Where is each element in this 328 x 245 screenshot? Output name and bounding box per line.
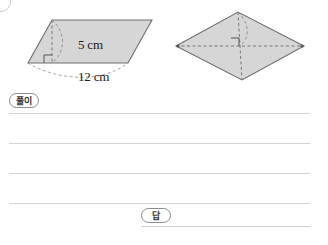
write-line[interactable]: [9, 203, 310, 204]
write-line[interactable]: [9, 173, 310, 174]
rhombus-right-vertex-dot: [300, 44, 303, 47]
parallelogram-figure: 5 cm 12 cm: [20, 8, 160, 80]
rhombus-left-vertex-dot: [176, 44, 179, 47]
solution-badge: 풀이: [9, 93, 39, 108]
parallelogram-base-label: 12 cm: [78, 70, 109, 83]
answer-line[interactable]: [141, 226, 310, 227]
write-line[interactable]: [9, 113, 310, 114]
figures-row: 5 cm 12 cm 4 cm 15cm: [0, 0, 328, 88]
rhombus-figure: 4 cm 15cm: [172, 4, 317, 84]
rhombus-svg: [172, 4, 317, 84]
answer-badge: 답: [141, 208, 171, 223]
parallelogram-height-label: 5 cm: [78, 38, 103, 51]
solution-area: 풀이 답: [0, 88, 328, 245]
write-line[interactable]: [9, 143, 310, 144]
